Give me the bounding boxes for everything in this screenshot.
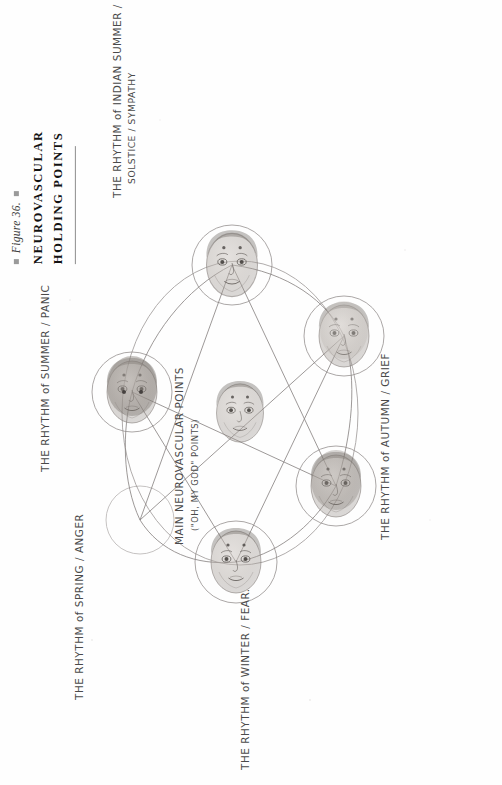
label-spring-line1: THE RHYTHM of SPRING / ANGER — [73, 514, 85, 700]
label-autumn-line1: THE RHYTHM of AUTUMN / GRIEF — [379, 353, 391, 540]
label-indian-summer-line1: THE RHYTHM of INDIAN SUMMER / — [111, 4, 123, 198]
node-winter — [296, 446, 376, 526]
label-main-line1: MAIN NEUROVASCULAR POINTS — [173, 367, 185, 545]
node-autumn — [304, 296, 384, 376]
label-autumn: THE RHYTHM of AUTUMN / GRIEF — [378, 353, 393, 540]
node-summer — [92, 352, 172, 432]
label-indian-summer-line2: SOLSTICE / SYMPATHY — [125, 4, 138, 184]
label-summer-line1: THE RHYTHM of SUMMER / PANIC — [39, 285, 51, 472]
label-main-line2: ("OH, MY GOD" POINTS) — [189, 367, 201, 531]
label-main-neurovascular-points: MAIN NEUROVASCULAR POINTS ("OH, MY GOD" … — [172, 367, 201, 545]
label-winter-line1: THE RHYTHM of WINTER / FEAR. — [239, 588, 251, 770]
label-summer: THE RHYTHM of SUMMER / PANIC — [38, 285, 53, 472]
node-indian-summer — [192, 225, 272, 305]
label-indian-summer: THE RHYTHM of INDIAN SUMMER / SOLSTICE /… — [110, 4, 138, 198]
label-spring: THE RHYTHM of SPRING / ANGER — [72, 514, 87, 700]
node-main-center — [216, 381, 263, 442]
label-winter: THE RHYTHM of WINTER / FEAR. — [238, 588, 253, 770]
figure-page: Figure 36. NEUROVASCULAR HOLDING POINTS — [0, 0, 502, 785]
